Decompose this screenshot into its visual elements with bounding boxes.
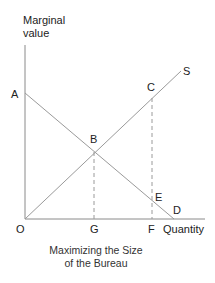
origin-label-O: O xyxy=(16,223,25,235)
tick-label-G: G xyxy=(90,223,99,235)
y-axis-label-line2: value xyxy=(23,27,49,39)
bureau-size-diagram: Marginal value A B C S E D O G F Quantit… xyxy=(0,0,215,283)
point-label-A: A xyxy=(11,88,19,100)
point-label-C: C xyxy=(147,81,155,93)
point-label-D: D xyxy=(173,204,181,216)
x-axis-label: Quantity xyxy=(163,223,204,235)
y-axis-label-line1: Marginal xyxy=(23,14,65,26)
point-label-B: B xyxy=(90,133,97,145)
point-label-E: E xyxy=(155,191,162,203)
point-label-S: S xyxy=(183,65,190,77)
tick-label-F: F xyxy=(148,223,155,235)
caption-line1: Maximizing the Size xyxy=(49,244,143,256)
caption-line2: of the Bureau xyxy=(64,257,127,269)
